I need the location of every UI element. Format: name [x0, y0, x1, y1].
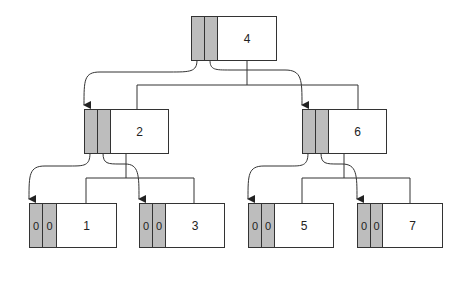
node-key: 4: [218, 17, 276, 60]
tree-node-5: 0 0 5: [248, 203, 334, 248]
right-pointer-cell: 0: [262, 204, 275, 247]
tree-node-4: 4: [191, 16, 277, 61]
node-key: 7: [383, 204, 442, 247]
node-key: 3: [166, 204, 224, 247]
node-key: 6: [329, 110, 386, 153]
left-pointer-cell: 0: [30, 204, 43, 247]
left-pointer-cell: 0: [249, 204, 262, 247]
tree-node-3: 0 0 3: [139, 203, 225, 248]
left-pointer-cell: [192, 17, 205, 60]
right-pointer-cell: 0: [153, 204, 166, 247]
right-pointer-cell: 0: [43, 204, 57, 247]
right-pointer-cell: [205, 17, 218, 60]
right-pointer-cell: [98, 110, 111, 153]
tree-node-2: 2: [84, 109, 169, 154]
node-key: 2: [111, 110, 168, 153]
right-pointer-cell: [316, 110, 329, 153]
tree-node-1: 0 0 1: [29, 203, 117, 248]
node-key: 5: [275, 204, 333, 247]
tree-node-7: 0 0 7: [357, 203, 443, 248]
left-pointer-cell: [303, 110, 316, 153]
left-pointer-cell: 0: [358, 204, 371, 247]
node-key: 1: [57, 204, 116, 247]
left-pointer-cell: 0: [140, 204, 153, 247]
right-pointer-cell: 0: [371, 204, 383, 247]
tree-node-6: 6: [302, 109, 387, 154]
left-pointer-cell: [85, 110, 98, 153]
